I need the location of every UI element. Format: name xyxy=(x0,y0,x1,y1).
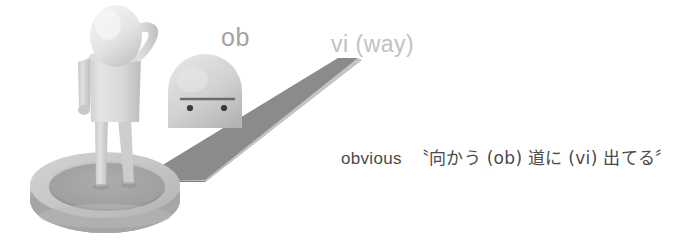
figure-arm-left xyxy=(78,58,90,110)
disc-inner-highlight xyxy=(49,161,165,209)
figure-foot-shadow-right xyxy=(121,182,137,188)
caption-english: obvious xyxy=(341,149,402,168)
robot-eye-left xyxy=(187,105,193,111)
figure-hand-left xyxy=(78,105,90,115)
figure-head-highlight xyxy=(95,10,121,40)
caption-japanese: 〝向かう (ob) 道に (vi) 出てる〞 xyxy=(412,148,673,168)
robot-dome-body xyxy=(168,54,242,128)
illustration-canvas: ob vi (way) obvious 〝向かう (ob) 道に (vi) 出て… xyxy=(0,0,689,245)
label-vi-way: vi (way) xyxy=(331,33,414,56)
dome-head-robot xyxy=(168,54,242,128)
label-ob: ob xyxy=(221,25,250,50)
ground-shadow xyxy=(39,204,171,228)
figure-foot-shadow-left xyxy=(93,184,109,190)
robot-eye-right xyxy=(221,105,227,111)
caption-text: obvious 〝向かう (ob) 道に (vi) 出てる〞 xyxy=(341,150,672,167)
figure-leg-left xyxy=(95,118,108,186)
robot-dome-highlight xyxy=(176,68,208,92)
